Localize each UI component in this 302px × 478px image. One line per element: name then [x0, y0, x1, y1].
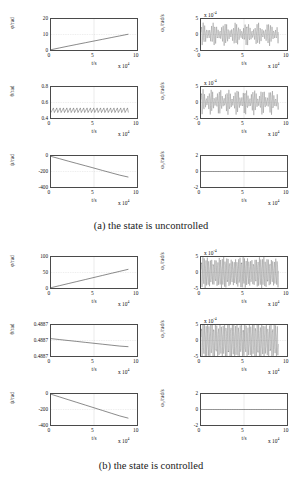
x-tick-0: 0 [198, 53, 201, 58]
panel-omega1-controlled: x 10-4 ω₁/rad/s 5 0 -5 0 5 10 t/s x 104 [152, 246, 302, 314]
subfigure-b: φ/rad 100 50 0 0 5 10 t/s x 104 x 10-4 ω… [0, 246, 302, 478]
x-tick-0: 0 [198, 428, 201, 433]
y-tick-top: 5 [152, 322, 198, 327]
x-axis-title: t/s [74, 61, 114, 66]
y-tick-mid: 0 [152, 407, 198, 412]
plot-box [200, 86, 288, 119]
x-axis-title: t/s [224, 198, 264, 203]
y-tick-bot: -5 [152, 286, 198, 291]
y-tick-bot: 0.4 [2, 116, 48, 121]
y-tick-mid: -200 [2, 169, 48, 174]
x-tick-0: 0 [198, 121, 201, 126]
x-tick-0: 0 [48, 190, 51, 195]
x-exponent-label: x 104 [268, 300, 279, 307]
x-tick-0: 0 [198, 359, 201, 364]
y-tick-bot: -400 [2, 423, 48, 428]
y-tick-mid: 0.4887 [2, 338, 48, 343]
panel-phi-uncontrolled: φ/rad 20 10 0 0 5 10 t/s x 104 [2, 8, 152, 76]
y-tick-top: 5 [152, 16, 198, 21]
y-tick-top: 0 [2, 153, 48, 158]
x-tick-5: 5 [241, 121, 244, 126]
y-tick-top: 0.8 [2, 84, 48, 89]
plot-box [200, 256, 288, 289]
x-exponent-label: x 104 [268, 199, 279, 206]
plot-box [50, 18, 138, 51]
y-tick-mid: -200 [2, 407, 48, 412]
x-tick-0: 0 [48, 428, 51, 433]
y-tick-top: 5 [152, 84, 198, 89]
x-exponent-label: x 104 [118, 300, 129, 307]
plot-box [200, 324, 288, 357]
y-exponent-label: x 10-4 [204, 11, 217, 18]
panel-psi-uncontrolled: ψ/rad 0 -200 -400 0 5 10 t/s x 104 [2, 145, 152, 213]
plot-box [200, 393, 288, 426]
x-tick-10: 10 [133, 190, 138, 195]
plot-box [50, 324, 138, 357]
panel-omega2-uncontrolled: x 10-4 ω₂/rad/s 5 0 -5 0 5 10 t/s x 104 [152, 76, 302, 144]
panel-omega2-controlled: x 10-4 ω₂/rad/s 5 0 -5 0 5 10 t/s x 104 [152, 314, 302, 382]
panel-omega1-uncontrolled: x 10-4 ω₁/rad/s 5 0 -5 0 5 10 t/s x 104 [152, 8, 302, 76]
x-tick-5: 5 [91, 53, 94, 58]
x-tick-0: 0 [198, 190, 201, 195]
y-tick-bot: -5 [152, 116, 198, 121]
x-tick-10: 10 [133, 121, 138, 126]
x-tick-0: 0 [198, 291, 201, 296]
x-tick-10: 10 [133, 291, 138, 296]
x-tick-5: 5 [91, 428, 94, 433]
x-exponent-label: x 104 [268, 368, 279, 375]
y-tick-top: 0 [2, 391, 48, 396]
x-tick-10: 10 [283, 121, 288, 126]
x-axis-title: t/s [74, 436, 114, 441]
x-tick-5: 5 [241, 291, 244, 296]
subfigure-b-caption: (b) the state is controlled [0, 460, 302, 472]
y-tick-top: 20 [2, 16, 48, 21]
x-exponent-label: x 104 [118, 199, 129, 206]
panel-psi-controlled: ψ/rad 0 -200 -400 0 5 10 t/s x 104 [2, 383, 152, 451]
x-axis-title: t/s [224, 129, 264, 134]
plot-box [50, 86, 138, 119]
x-axis-title: t/s [224, 61, 264, 66]
x-tick-0: 0 [48, 121, 51, 126]
y-tick-mid: 50 [2, 270, 48, 275]
x-tick-0: 0 [48, 53, 51, 58]
x-exponent-label: x 104 [268, 62, 279, 69]
x-tick-5: 5 [91, 359, 94, 364]
x-tick-5: 5 [241, 53, 244, 58]
x-exponent-label: x 104 [268, 437, 279, 444]
x-tick-10: 10 [283, 359, 288, 364]
x-tick-5: 5 [91, 291, 94, 296]
panel-grid-b: φ/rad 100 50 0 0 5 10 t/s x 104 x 10-4 ω… [0, 246, 302, 451]
y-exponent-label: x 10-4 [204, 317, 217, 324]
y-tick-mid: 0 [152, 169, 198, 174]
plot-box [50, 256, 138, 289]
y-tick-top: 2 [152, 153, 198, 158]
subfigure-a-caption: (a) the state is uncontrolled [0, 220, 302, 232]
y-tick-top: 2 [152, 391, 198, 396]
subfigure-a: φ/rad 20 10 0 0 5 10 t/s x 104 x 10-4 ω₁… [0, 8, 302, 238]
y-tick-mid: 0.6 [2, 100, 48, 105]
x-axis-title: t/s [224, 436, 264, 441]
x-tick-5: 5 [241, 359, 244, 364]
x-exponent-label: x 104 [118, 62, 129, 69]
y-tick-bot: 0 [2, 286, 48, 291]
x-tick-10: 10 [133, 359, 138, 364]
x-axis-title: t/s [224, 299, 264, 304]
x-axis-title: t/s [74, 367, 114, 372]
x-tick-10: 10 [133, 428, 138, 433]
panel-theta-uncontrolled: θ/rad 0.8 0.6 0.4 0 5 10 t/s x 104 [2, 76, 152, 144]
y-tick-top: 5 [152, 254, 198, 259]
x-tick-10: 10 [283, 190, 288, 195]
y-tick-mid: 0 [152, 338, 198, 343]
x-tick-5: 5 [91, 190, 94, 195]
x-exponent-label: x 104 [118, 437, 129, 444]
x-tick-5: 5 [91, 121, 94, 126]
y-tick-bot: -400 [2, 185, 48, 190]
y-exponent-label: x 10-4 [204, 79, 217, 86]
x-exponent-label: x 104 [118, 130, 129, 137]
panel-grid-a: φ/rad 20 10 0 0 5 10 t/s x 104 x 10-4 ω₁… [0, 8, 302, 213]
x-exponent-label: x 104 [118, 368, 129, 375]
y-exponent-label: x 10-4 [204, 249, 217, 256]
y-tick-bot: 0 [2, 48, 48, 53]
x-tick-5: 5 [241, 190, 244, 195]
x-tick-0: 0 [48, 291, 51, 296]
